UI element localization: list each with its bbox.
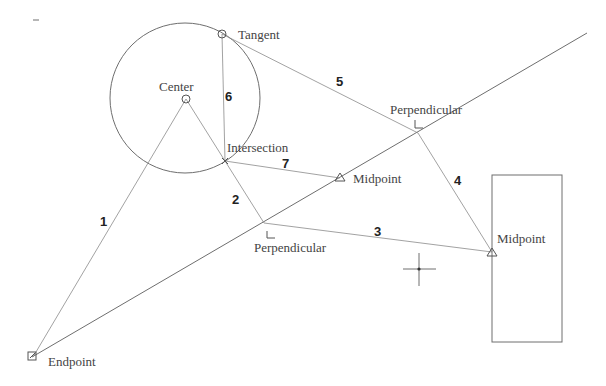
rectangle[interactable] [492, 175, 562, 342]
segment-5[interactable] [222, 34, 418, 133]
cad-drawing-canvas[interactable]: Tangent Center Intersection Perpendicula… [0, 0, 606, 386]
segment-number-7: 7 [282, 156, 289, 171]
segment-number-1: 1 [100, 214, 107, 229]
segment-4[interactable] [418, 133, 492, 252]
segment-number-3: 3 [374, 224, 381, 239]
crosshair-cursor-icon [403, 253, 436, 286]
perpendicular-bottom-marker-icon [267, 231, 275, 238]
segment-number-6: 6 [225, 89, 232, 104]
segment-number-2: 2 [232, 192, 239, 207]
label-intersection: Intersection [227, 140, 289, 155]
segment-1[interactable] [33, 99, 186, 357]
label-midpoint-right: Midpoint [497, 231, 546, 246]
label-midpoint: Midpoint [353, 171, 402, 186]
label-perpendicular-top: Perpendicular [390, 102, 463, 117]
endpoint-marker-icon [28, 352, 36, 360]
label-tangent: Tangent [238, 27, 280, 42]
label-perpendicular-bottom: Perpendicular [254, 240, 327, 255]
label-endpoint: Endpoint [48, 354, 96, 369]
perpendicular-top-marker-icon [415, 120, 423, 128]
diagonal-line[interactable] [32, 33, 587, 357]
segment-number-5: 5 [336, 74, 343, 89]
label-center: Center [159, 79, 194, 94]
segment-number-4: 4 [454, 173, 462, 188]
